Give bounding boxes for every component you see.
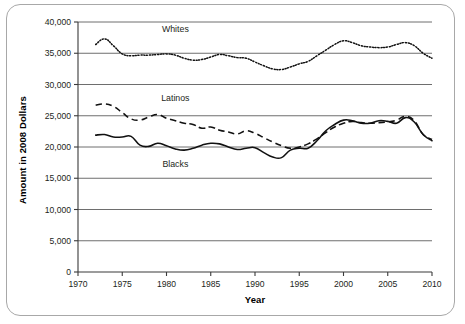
- series-label-blacks: Blacks: [162, 159, 189, 169]
- y-axis-title-group: Amount in 2008 Dollars: [17, 96, 28, 204]
- x-tick-label: 1970: [68, 279, 87, 289]
- y-tick-label: 30,000: [45, 80, 72, 90]
- x-tick-label: 2010: [422, 279, 441, 289]
- x-tick-label: 2000: [334, 279, 353, 289]
- y-tick-label: 15,000: [45, 173, 72, 183]
- x-tick-label: 1990: [245, 279, 264, 289]
- series-line-blacks: [96, 118, 432, 159]
- x-tick-label: 1980: [157, 279, 176, 289]
- x-tick-label: 1985: [201, 279, 220, 289]
- series-label-latinos: Latinos: [161, 93, 190, 103]
- y-tick-label: 0: [66, 267, 71, 277]
- x-tick-label: 1995: [290, 279, 309, 289]
- series-line-whites: [96, 39, 432, 70]
- y-axis-title: Amount in 2008 Dollars: [17, 96, 28, 204]
- y-tick-label: 40,000: [45, 17, 72, 27]
- chart-canvas: Amount in 2008 Dollars 05,00010,00015,00…: [0, 0, 465, 324]
- series-line-latinos: [96, 104, 432, 148]
- y-tick-label: 20,000: [45, 142, 72, 152]
- x-tick-label: 1975: [113, 279, 132, 289]
- y-tick-label: 35,000: [45, 48, 72, 58]
- x-axis-title: Year: [245, 294, 266, 305]
- y-tick-label: 10,000: [45, 205, 72, 215]
- y-tick-label: 25,000: [45, 111, 72, 121]
- y-tick-label: 5,000: [49, 236, 71, 246]
- x-tick-label: 2005: [378, 279, 397, 289]
- x-axis-tick-labels: 197019751980198519901995200020052010: [68, 279, 441, 289]
- y-axis-tick-marks: [74, 22, 78, 272]
- x-axis-tick-marks: [78, 272, 432, 276]
- series-label-whites: Whites: [162, 24, 189, 34]
- y-axis-tick-labels: 05,00010,00015,00020,00025,00030,00035,0…: [45, 17, 72, 277]
- data-series-group: [96, 39, 432, 159]
- gridlines: [78, 22, 432, 241]
- line-chart: Amount in 2008 Dollars 05,00010,00015,00…: [0, 0, 465, 324]
